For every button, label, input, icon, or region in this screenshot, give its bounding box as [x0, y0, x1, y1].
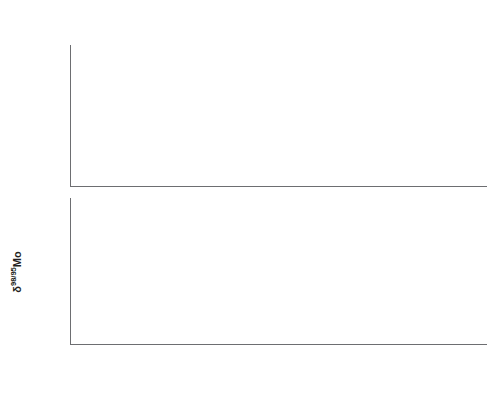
chart-panel-mo-ppm — [70, 45, 487, 187]
top-y-axis — [70, 45, 71, 187]
bottom-y-axis — [70, 198, 71, 345]
delta-symbol: δ — [11, 286, 23, 293]
top-x-axis — [70, 186, 487, 187]
bottom-x-axis — [70, 344, 487, 345]
figure: δ98/95Mo — [0, 28, 492, 396]
bottom-y-axis-title: δ98/95Mo — [9, 251, 23, 292]
figure-page: δ98/95Mo — [0, 0, 492, 396]
mo-label: Mo — [11, 251, 23, 267]
isotope-superscript: 98/95 — [9, 267, 18, 286]
chart-panel-delta-mo: δ98/95Mo — [70, 198, 487, 345]
